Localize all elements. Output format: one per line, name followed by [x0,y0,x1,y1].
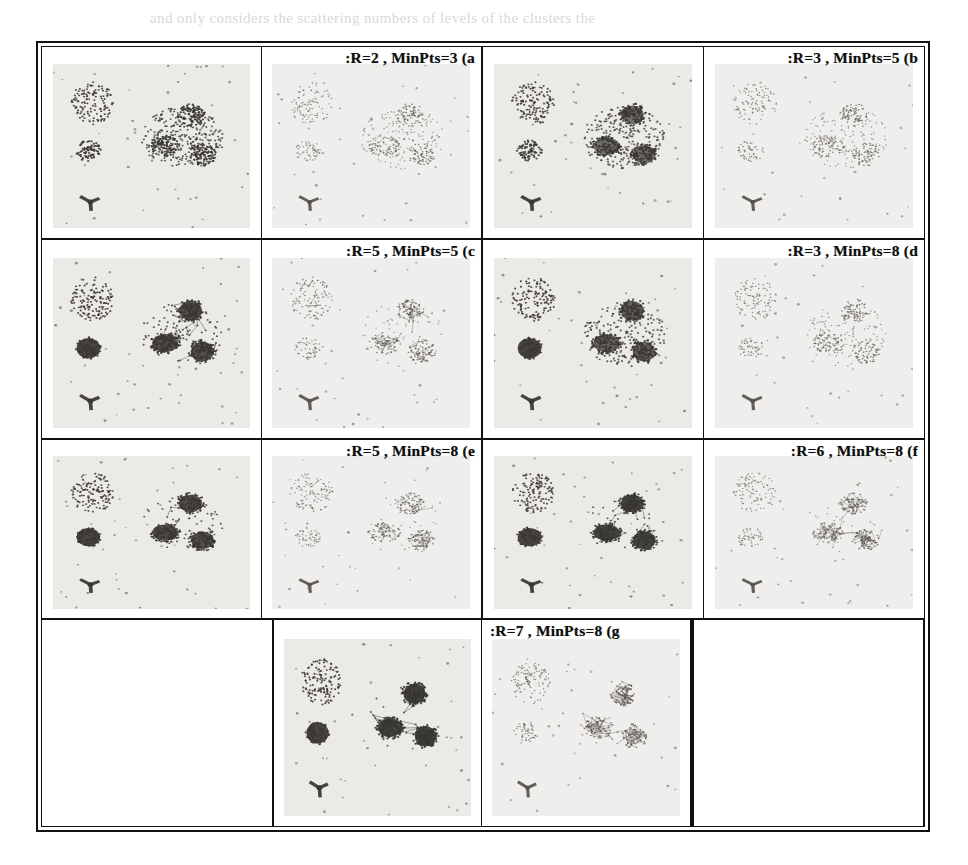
plate-d-input [494,258,692,428]
panel-f-result: :R=6 , MinPts=8 (f [704,440,925,618]
panel-d-input [483,240,704,438]
panel-c-input [42,240,262,438]
plate-c-input [53,258,250,428]
scatter-b-result [715,64,913,228]
scatter-d-result [715,258,913,428]
plate-g-result [492,639,679,816]
panel-b-caption: :R=3 , MinPts=5 (b [787,49,918,67]
panel-c-result: :R=5 , MinPts=5 (c [262,240,482,438]
panel-b[interactable]: :R=3 , MinPts=5 (b [483,47,924,238]
panel-e-caption: :R=5 , MinPts=8 (e [346,442,475,460]
scatter-e-input [53,456,250,609]
panel-d-caption: :R=3 , MinPts=8 (d [787,242,918,260]
panel-row-3: :R=5 , MinPts=8 (e :R=6 , MinPts=8 (f [42,440,924,620]
plate-e-input [53,456,250,609]
empty-cell-right [692,620,924,826]
panel-e-input [42,440,262,618]
scatter-e-result [272,456,470,609]
panel-d-result: :R=3 , MinPts=8 (d [704,240,925,438]
scatter-d-input [494,258,692,428]
scatter-b-input [494,64,692,228]
panel-b-result: :R=3 , MinPts=5 (b [704,47,925,238]
plate-a-input [53,64,250,228]
panel-row-1: :R=2 , MinPts=3 (a :R=3 , MinPts=5 (b [42,47,924,240]
plate-c-result [272,258,470,428]
panel-g-result: :R=7 , MinPts=8 (g [482,620,690,826]
panel-c[interactable]: :R=5 , MinPts=5 (c [42,240,483,438]
plate-d-result [715,258,913,428]
panel-f-input [483,440,704,618]
scatter-a-input [53,64,250,228]
scatter-c-result [272,258,470,428]
panel-b-input [483,47,704,238]
plate-f-input [494,456,692,609]
panel-f-caption: :R=6 , MinPts=8 (f [791,442,918,460]
panel-g-caption: :R=7 , MinPts=8 (g [490,622,620,640]
panel-a[interactable]: :R=2 , MinPts=3 (a [42,47,483,238]
scatter-a-result [272,64,470,228]
scatter-g-input [284,639,470,816]
panel-a-result: :R=2 , MinPts=3 (a [262,47,482,238]
panel-g[interactable]: :R=7 , MinPts=8 (g [274,620,692,826]
bleed-line: and only considers the scattering number… [150,10,595,27]
scatter-c-input [53,258,250,428]
panel-row-2: :R=5 , MinPts=5 (c :R=3 , MinPts=8 (d [42,240,924,440]
panel-e[interactable]: :R=5 , MinPts=8 (e [42,440,483,618]
panel-f[interactable]: :R=6 , MinPts=8 (f [483,440,924,618]
scatter-f-input [494,456,692,609]
plate-b-input [494,64,692,228]
panel-e-result: :R=5 , MinPts=8 (e [262,440,482,618]
panel-g-input [274,620,482,826]
panel-grid: :R=2 , MinPts=3 (a :R=3 , MinPts=5 (b [42,47,924,826]
plate-g-input [284,639,470,816]
plate-a-result [272,64,470,228]
plate-f-result [715,456,913,609]
panel-c-caption: :R=5 , MinPts=5 (c [346,242,475,260]
panel-a-caption: :R=2 , MinPts=3 (a [345,49,475,67]
panel-row-4: :R=7 , MinPts=8 (g [42,620,924,826]
empty-cell-left [42,620,274,826]
plate-e-result [272,456,470,609]
plate-b-result [715,64,913,228]
panel-d[interactable]: :R=3 , MinPts=8 (d [483,240,924,438]
panel-a-input [42,47,262,238]
scatter-g-result [492,639,679,816]
scatter-f-result [715,456,913,609]
